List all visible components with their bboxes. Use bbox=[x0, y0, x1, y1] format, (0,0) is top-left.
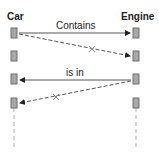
activation-box-engine-2 bbox=[133, 51, 139, 61]
message-arrow-dashed-2 bbox=[20, 81, 131, 103]
message-arrow-dashed-1 bbox=[19, 34, 130, 56]
activation-box-engine-3 bbox=[133, 74, 139, 84]
cross-icon bbox=[89, 46, 95, 52]
activation-box-car-2 bbox=[11, 51, 17, 61]
activation-box-engine-1 bbox=[133, 28, 139, 38]
cross-icon bbox=[53, 94, 59, 100]
sequence-diagram bbox=[0, 0, 159, 156]
activation-box-engine-4 bbox=[133, 98, 139, 108]
activation-box-car-1 bbox=[11, 28, 17, 38]
activation-box-car-4 bbox=[11, 98, 17, 108]
activation-box-car-3 bbox=[11, 74, 17, 84]
